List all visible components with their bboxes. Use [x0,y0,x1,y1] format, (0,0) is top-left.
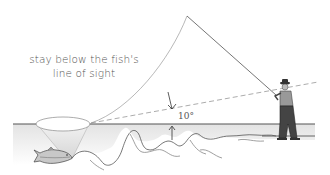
caption-text: stay below the fish's line of sight [20,52,148,80]
window-ellipse [36,117,90,131]
fishing-diagram: stay below the fish's line of sight 10° [0,0,330,175]
caption-line-2: line of sight [20,66,148,80]
caption-line-1: stay below the fish's [20,52,148,66]
diagram-svg [0,0,330,175]
fly-rod [187,16,276,95]
angle-label: 10° [178,111,194,121]
